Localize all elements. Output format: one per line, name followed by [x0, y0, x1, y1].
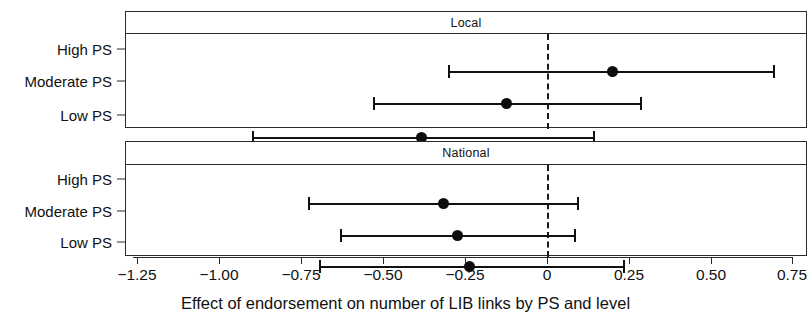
y-axis-tick-local-high-ps — [117, 49, 125, 50]
forest-plot-figure: Local — [0, 0, 811, 321]
ci-cap-low — [340, 229, 342, 242]
x-axis-tick-label-2: −0.75 — [281, 266, 320, 284]
x-axis-line — [133, 257, 793, 258]
ci-cap-high — [574, 229, 576, 242]
y-axis-label-local-moderate-ps: Moderate PS — [0, 73, 112, 90]
y-axis-tick-local-low-ps — [117, 115, 125, 116]
x-axis-tick-label-1: −1.00 — [199, 266, 238, 284]
x-axis-tick-5 — [547, 257, 548, 264]
ci-cap-high — [577, 197, 579, 210]
panel-national: National — [125, 141, 807, 256]
panel-body-national — [126, 165, 806, 257]
x-axis-tick-3 — [383, 257, 384, 264]
point-estimate-dot — [452, 230, 463, 241]
x-axis-tick-label-7: 0.50 — [696, 266, 726, 284]
panel-strip-label-local: Local — [451, 16, 482, 30]
x-axis-tick-2 — [301, 257, 302, 264]
y-axis-tick-national-high-ps — [117, 179, 125, 180]
panel-strip-local: Local — [126, 12, 806, 34]
x-axis-tick-4 — [465, 257, 466, 264]
point-estimate-dot — [438, 198, 449, 209]
x-axis-tick-label-8: 0.75 — [777, 266, 807, 284]
ci-cap-high — [773, 65, 775, 78]
y-axis-label-local-high-ps: High PS — [0, 41, 112, 58]
y-axis-tick-national-low-ps — [117, 242, 125, 243]
zero-reference-line-local — [547, 34, 549, 129]
point-estimate-dot — [607, 66, 618, 77]
x-axis-tick-label-0: −1.25 — [117, 266, 156, 284]
ci-cap-low — [373, 97, 375, 110]
zero-reference-line-national — [547, 165, 549, 257]
x-axis-tick-label-5: 0 — [543, 266, 552, 284]
ci-cap-low — [308, 197, 310, 210]
x-axis-tick-6 — [629, 257, 630, 264]
x-axis-tick-label-4: −0.25 — [445, 266, 484, 284]
x-axis-tick-label-3: −0.50 — [363, 266, 402, 284]
x-axis-tick-8 — [792, 257, 793, 264]
x-axis-tick-7 — [711, 257, 712, 264]
panel-strip-national: National — [126, 142, 806, 165]
panel-body-local — [126, 34, 806, 129]
y-axis-label-national-moderate-ps: Moderate PS — [0, 203, 112, 220]
x-axis-title: Effect of endorsement on number of LIB l… — [0, 294, 811, 313]
y-axis-label-national-high-ps: High PS — [0, 171, 112, 188]
y-axis-tick-local-moderate-ps — [117, 81, 125, 82]
x-axis-tick-label-6: 0.25 — [614, 266, 644, 284]
point-estimate-dot — [501, 98, 512, 109]
y-axis-label-national-low-ps: Low PS — [0, 234, 112, 251]
x-axis-tick-0 — [137, 257, 138, 264]
panel-local: Local — [125, 11, 807, 128]
x-axis-tick-1 — [219, 257, 220, 264]
y-axis-tick-national-moderate-ps — [117, 211, 125, 212]
panel-strip-label-national: National — [442, 146, 489, 160]
ci-cap-low — [448, 65, 450, 78]
y-axis-label-local-low-ps: Low PS — [0, 107, 112, 124]
ci-cap-high — [640, 97, 642, 110]
